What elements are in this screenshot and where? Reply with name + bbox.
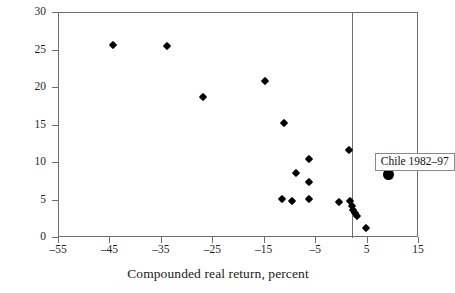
x-tick-label: –15 [244,243,284,255]
chile-annotation-label: Chile 1982–97 [375,153,455,171]
data-point-marker [199,93,207,101]
data-point-marker [305,178,313,186]
y-tick-label: 5 [0,194,46,205]
data-point-marker [278,195,286,203]
data-point-marker [335,198,343,206]
y-tick-label: 30 [0,6,46,17]
x-tick-label: –35 [141,243,181,255]
y-tick-label: 20 [0,81,46,92]
data-point-marker [260,76,268,84]
x-tick-label: –45 [89,243,129,255]
data-point-marker [291,169,299,177]
data-point-marker [109,41,117,49]
data-point-marker [305,155,313,163]
x-axis-title: Compounded real return, percent [0,266,436,282]
data-point-marker [305,195,313,203]
x-axis-labels: –55–45–35–25–15–5515 [0,243,436,261]
x-tick-label: –5 [295,243,335,255]
x-tick-label: –55 [38,243,78,255]
x-tick-label: 15 [398,243,438,255]
plot-area: Chile 1982–97 [58,12,418,237]
y-tick-label: 10 [0,156,46,167]
data-point-marker [361,224,369,232]
data-point-marker [353,212,361,220]
y-tick-label: 0 [0,231,46,242]
data-point-marker [163,42,171,50]
x-tick-label: 5 [347,243,387,255]
x-tick-label: –25 [192,243,232,255]
data-point-marker [288,196,296,204]
y-tick-label: 15 [0,119,46,130]
data-point-marker [280,118,288,126]
y-tick-label: 25 [0,44,46,55]
